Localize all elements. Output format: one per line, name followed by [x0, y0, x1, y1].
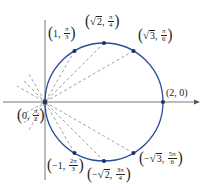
point-sqrt2-pi4	[102, 41, 106, 45]
paren-open: (	[87, 167, 92, 183]
theta-den: 3	[70, 166, 76, 173]
label-negsqrt2-3pi4: ( − √2, 3π4 )	[87, 167, 131, 182]
comma: ,	[155, 31, 158, 41]
paren-close: )	[178, 151, 183, 167]
point-neg1-2pi3	[73, 151, 77, 155]
paren-close: )	[40, 108, 45, 124]
label-1-pi3: ( 1, π3 )	[48, 26, 76, 41]
theta-den: 6	[169, 159, 175, 166]
paren-open: (	[47, 158, 52, 174]
comma: ,	[63, 161, 66, 171]
sqrt-term: √3	[150, 153, 162, 164]
label-sqrt3-pi6: ( √3, π6 )	[138, 28, 173, 43]
paren-close: )	[126, 167, 131, 183]
comma: ,	[102, 17, 105, 27]
label-theta: 5π6	[168, 151, 177, 166]
theta-den: 6	[161, 36, 167, 43]
theta-den: 2	[33, 116, 39, 123]
sqrt-term: √3	[143, 30, 155, 41]
label-2-0: (2, 0)	[166, 88, 188, 98]
label-theta: 2π3	[69, 158, 78, 173]
paren-open: (	[139, 151, 144, 167]
paren-close: )	[71, 26, 76, 42]
comma: ,	[27, 111, 30, 121]
paren-open: (	[48, 26, 53, 42]
comma: ,	[110, 170, 113, 180]
label-theta: π4	[108, 14, 114, 29]
point-0-pi2	[43, 100, 48, 105]
point-2-0	[161, 100, 165, 104]
point-negsqrt3-5pi6	[132, 151, 136, 155]
label-text: (2, 0)	[166, 88, 188, 98]
label-theta: π2	[33, 108, 39, 123]
point-1-pi3	[73, 49, 77, 53]
label-0-pi2: ( 0, π2 )	[17, 108, 45, 123]
theta-den: 3	[64, 34, 70, 41]
paren-close: )	[168, 28, 173, 44]
theta-den: 4	[108, 22, 114, 29]
paren-open: (	[85, 14, 90, 30]
label-neg1-2pi3: ( −1, 2π3 )	[47, 158, 84, 173]
paren-open: (	[138, 28, 143, 44]
label-theta: 3π4	[116, 167, 125, 182]
sqrt-term: √2	[90, 16, 102, 27]
point-sqrt3-pi6	[132, 49, 136, 53]
x-axis-arrow-icon	[194, 100, 200, 105]
point-negsqrt2-3pi4	[102, 159, 106, 163]
label-negsqrt3-5pi6: ( − √3, 5π6 )	[139, 151, 183, 166]
paren-open: (	[17, 108, 22, 124]
label-r: −1	[52, 161, 63, 171]
label-theta: π3	[64, 26, 70, 41]
label-theta: π6	[161, 28, 167, 43]
theta-den: 4	[117, 175, 123, 182]
label-sqrt2-pi4: ( √2, π4 )	[85, 14, 120, 29]
paren-close: )	[79, 158, 84, 174]
comma: ,	[162, 154, 165, 164]
comma: ,	[58, 29, 61, 39]
sqrt-term: √2	[98, 169, 110, 180]
paren-close: )	[115, 14, 120, 30]
